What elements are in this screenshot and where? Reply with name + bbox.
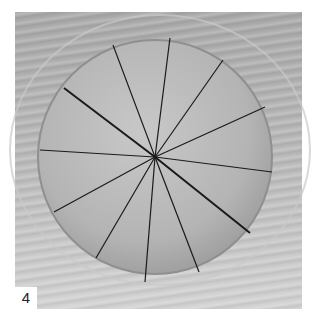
- figure-number-label: 4: [15, 287, 37, 309]
- disc-illustration: [0, 0, 316, 322]
